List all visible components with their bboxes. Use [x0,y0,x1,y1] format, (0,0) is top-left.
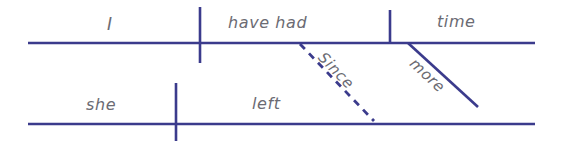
subordinate-clause-predicate-label: left [252,96,281,112]
main-clause-predicate-label: have had [228,15,307,31]
main-clause-direct-object-label: time [437,14,476,30]
main-clause-subject-label: I [107,16,113,33]
subordinate-clause-subject-label: she [86,97,116,113]
sentence-diagram-canvas: I have had time more Since she left [0,0,561,149]
